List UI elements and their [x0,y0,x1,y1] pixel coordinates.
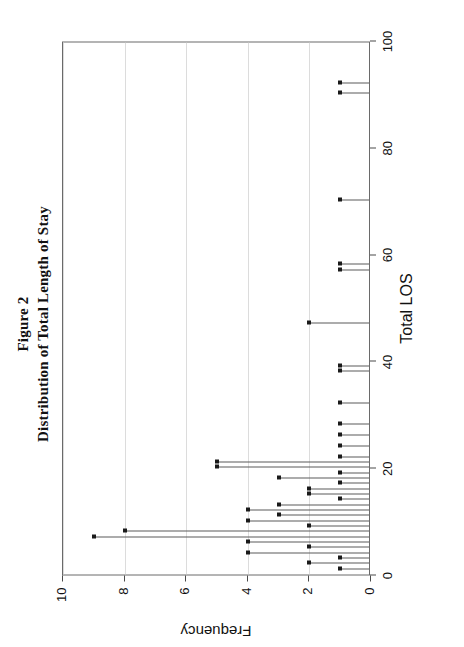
rotated-figure-canvas: Figure 2 Distribution of Total Length of… [0,0,464,647]
gridline [125,42,126,574]
x-axis-tick-label: 0 [380,555,395,595]
stem [309,525,370,526]
data-point-marker [338,198,342,202]
data-point-marker [246,508,250,512]
y-axis-tick-label: 0 [362,587,377,621]
x-axis-tick-label: 80 [380,128,395,168]
y-axis-tick-label: 6 [177,587,192,621]
y-axis-tick-label: 10 [54,587,69,621]
data-point-marker [338,81,342,85]
plot-area [62,41,370,575]
stem [340,498,370,499]
y-axis-tick [124,575,125,581]
x-axis-tick [370,147,376,148]
stem [309,562,370,563]
y-axis-tick [185,575,186,581]
data-point-marker [277,513,281,517]
stem [217,461,370,462]
data-point-marker [307,487,311,491]
data-point-marker [307,561,311,565]
stem [279,514,370,515]
stem [340,423,370,424]
stem [248,541,370,542]
y-axis-tick [370,575,371,581]
data-point-marker [215,460,219,464]
data-point-marker [338,268,342,272]
stem [309,322,370,323]
y-axis-tick [308,575,309,581]
data-point-marker [338,455,342,459]
data-point-marker [338,433,342,437]
x-axis-tick-label: 60 [380,235,395,275]
x-axis-tick-label: 40 [380,341,395,381]
data-point-marker [338,369,342,373]
gridline [248,42,249,574]
stem [340,434,370,435]
x-axis-tick [370,40,376,41]
y-axis-tick [62,575,63,581]
stem [340,568,370,569]
data-point-marker [338,364,342,368]
stem [309,488,370,489]
stem [340,263,370,264]
data-point-marker [338,481,342,485]
x-axis-tick [370,467,376,468]
x-axis-label: Total LOS [398,41,416,575]
stem [340,445,370,446]
data-point-marker [338,497,342,501]
data-point-marker [338,444,342,448]
stem [248,552,370,553]
data-point-marker [277,503,281,507]
data-point-marker [277,476,281,480]
x-axis-tick [370,254,376,255]
figure-title: Distribution of Total Length of Stay [33,0,53,647]
stem [309,493,370,494]
y-axis-label-wrapper: Frequency [62,621,370,641]
stem [279,477,370,478]
stem [309,546,370,547]
x-axis-tick [370,360,376,361]
stem [340,370,370,371]
data-point-marker [246,551,250,555]
stem [340,472,370,473]
data-point-marker [246,540,250,544]
y-axis-tick-label: 2 [300,587,315,621]
data-point-marker [338,471,342,475]
data-point-marker [307,492,311,496]
gridline [63,42,64,574]
data-point-marker [246,519,250,523]
data-point-marker [338,401,342,405]
gridline [186,42,187,574]
stem [248,520,370,521]
x-axis-tick-label: 100 [380,21,395,61]
stem [248,509,370,510]
data-point-marker [338,422,342,426]
figure-title-block: Figure 2 Distribution of Total Length of… [14,0,53,647]
data-point-marker [215,465,219,469]
data-point-marker [338,91,342,95]
x-axis-tick-label: 20 [380,448,395,488]
y-axis-tick-label: 8 [116,587,131,621]
data-point-marker [307,321,311,325]
stem [340,92,370,93]
stem [340,269,370,270]
y-axis-tick [247,575,248,581]
data-point-marker [338,262,342,266]
stem [340,82,370,83]
stem [340,557,370,558]
data-point-marker [338,556,342,560]
stem [340,402,370,403]
stem [94,536,370,537]
stem [340,365,370,366]
stem [340,482,370,483]
data-point-marker [123,529,127,533]
data-point-marker [92,535,96,539]
stem [340,456,370,457]
figure-number: Figure 2 [14,0,33,647]
y-axis-label: Frequency [181,623,252,640]
stem [217,466,370,467]
data-point-marker [307,545,311,549]
stem [340,199,370,200]
figure: Figure 2 Distribution of Total Length of… [0,0,464,647]
data-point-marker [307,524,311,528]
